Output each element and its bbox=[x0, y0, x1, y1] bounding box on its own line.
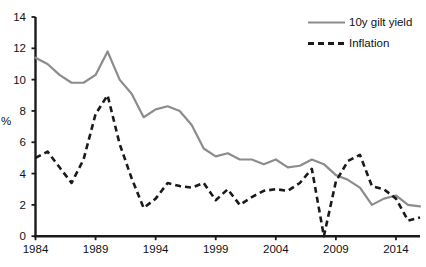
axis-lines bbox=[32, 17, 421, 240]
legend-swatches bbox=[308, 23, 345, 44]
legend-label-10y-gilt-yield: 10y gilt yield bbox=[349, 16, 412, 28]
y-axis-tick-label: 6 bbox=[6, 136, 26, 148]
series-line-10y-gilt-yield bbox=[36, 51, 421, 206]
y-axis-tick-label: 0 bbox=[6, 230, 26, 242]
x-axis-tick-label: 1984 bbox=[13, 243, 59, 255]
data-series bbox=[36, 51, 421, 236]
x-axis-tick-label: 2014 bbox=[373, 243, 419, 255]
legend-label-inflation: Inflation bbox=[349, 37, 389, 49]
chart-container: % 02468101214 19841989199419992004200920… bbox=[0, 0, 426, 267]
x-axis-tick-label: 2009 bbox=[313, 243, 359, 255]
x-axis-tick-label: 1999 bbox=[193, 243, 239, 255]
y-axis-tick-label: 14 bbox=[6, 11, 26, 23]
x-axis-tick-label: 1989 bbox=[73, 243, 119, 255]
y-axis-tick-label: 4 bbox=[6, 168, 26, 180]
y-axis-tick-label: 2 bbox=[6, 199, 26, 211]
x-axis-tick-label: 2004 bbox=[253, 243, 299, 255]
y-axis-tick-label: 8 bbox=[6, 105, 26, 117]
y-axis-tick-label: 10 bbox=[6, 74, 26, 86]
y-axis-tick-label: 12 bbox=[6, 42, 26, 54]
series-line-inflation bbox=[36, 95, 421, 236]
x-axis-tick-label: 1994 bbox=[133, 243, 179, 255]
